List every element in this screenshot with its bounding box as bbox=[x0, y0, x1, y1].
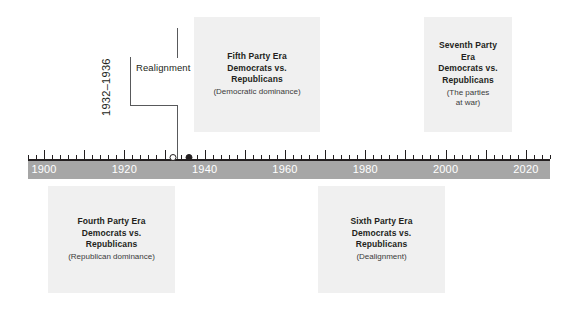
era-panel-seventh: Seventh Party Era Democrats vs. Republic… bbox=[424, 17, 512, 132]
axis-tick-major bbox=[205, 150, 206, 159]
axis-year-label: 1920 bbox=[112, 163, 137, 175]
era-title-fourth: Fourth Party Era Democrats vs. Republica… bbox=[77, 216, 145, 251]
era-subtitle-fifth: (Democratic dominance) bbox=[213, 87, 300, 98]
party-era-timeline-figure: Fourth Party Era Democrats vs. Republica… bbox=[0, 0, 575, 311]
era-panel-sixth: Sixth Party Era Democrats vs. Republican… bbox=[318, 186, 445, 293]
axis-tick-major bbox=[84, 150, 85, 159]
axis-tick-major bbox=[486, 150, 487, 159]
era-panel-fifth: Fifth Party Era Democrats vs. Republican… bbox=[194, 17, 320, 132]
axis-year-label: 2020 bbox=[513, 163, 538, 175]
axis-tick-group bbox=[28, 150, 550, 159]
axis-year-label: 2000 bbox=[433, 163, 458, 175]
event-marker-1936 bbox=[185, 154, 192, 161]
axis-tick-major bbox=[44, 150, 45, 159]
era-panel-fourth: Fourth Party Era Democrats vs. Republica… bbox=[48, 186, 175, 293]
era-title-sixth: Sixth Party Era Democrats vs. Republican… bbox=[351, 216, 413, 251]
realignment-text-label: Realignment bbox=[136, 62, 190, 73]
axis-tick-major bbox=[365, 150, 366, 159]
axis-tick-minor bbox=[550, 155, 551, 160]
axis-tick-major bbox=[325, 150, 326, 159]
axis-tick-major bbox=[405, 150, 406, 159]
axis-tick-major bbox=[446, 150, 447, 159]
era-subtitle-seventh: (The parties at war) bbox=[447, 88, 490, 109]
era-title-seventh: Seventh Party Era Democrats vs. Republic… bbox=[438, 40, 497, 86]
axis-year-label: 1900 bbox=[31, 163, 56, 175]
axis-year-label: 1980 bbox=[353, 163, 378, 175]
axis-tick-major bbox=[526, 150, 527, 159]
era-subtitle-fourth: (Republican dominance) bbox=[68, 252, 155, 263]
event-marker-1932 bbox=[169, 154, 176, 161]
axis-tick-major bbox=[285, 150, 286, 159]
axis-year-label: 1940 bbox=[192, 163, 217, 175]
era-subtitle-sixth: (Dealignment) bbox=[356, 252, 406, 263]
axis-tick-major bbox=[165, 150, 166, 159]
era-title-fifth: Fifth Party Era Democrats vs. Republican… bbox=[227, 51, 287, 86]
axis-tick-major bbox=[245, 150, 246, 159]
axis-year-label: 1960 bbox=[272, 163, 297, 175]
realignment-bracket-left-rule bbox=[130, 57, 131, 106]
realignment-bracket-connector bbox=[130, 105, 178, 106]
axis-tick-major bbox=[124, 150, 125, 159]
realignment-years-label: 1932–1936 bbox=[100, 58, 112, 116]
realignment-bracket-stem bbox=[177, 28, 178, 58]
